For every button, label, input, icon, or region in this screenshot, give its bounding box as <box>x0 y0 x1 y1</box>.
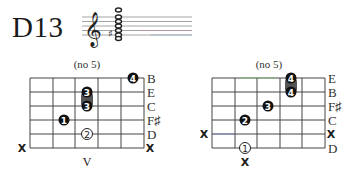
right-finger-2: 2 <box>240 115 251 126</box>
muted-string-marker: X <box>239 157 251 168</box>
svg-text:2: 2 <box>84 130 90 140</box>
svg-text:3: 3 <box>84 88 90 98</box>
sharp-icon: ♯ <box>108 28 113 39</box>
string-label: F♯ <box>147 114 161 127</box>
string-label: B <box>328 86 337 99</box>
svg-text:1: 1 <box>242 144 248 154</box>
string-label: E <box>147 86 155 99</box>
svg-text:4: 4 <box>288 74 294 84</box>
muted-string-marker: X <box>144 143 156 154</box>
string-label: E <box>328 72 336 85</box>
muted-string-marker: X <box>198 129 210 140</box>
string-label: B <box>147 72 156 85</box>
finger-number: 4 <box>130 74 136 84</box>
right-finger-1-open: 1 <box>240 143 251 154</box>
treble-clef-icon: 𝄞 <box>84 11 102 48</box>
left-finger-3a: 3 <box>82 87 93 98</box>
string-label: D <box>147 128 156 141</box>
string-label: F♯ <box>328 100 342 113</box>
right-finger-4a: 4 <box>286 73 297 84</box>
svg-text:2: 2 <box>242 116 248 126</box>
svg-text:3: 3 <box>265 102 271 112</box>
left-finger-1: 1 <box>59 115 70 126</box>
position-marker: V <box>81 156 93 168</box>
right-diagram-subtitle: (no 5) <box>239 58 299 70</box>
left-finger-2-open: 2 <box>82 129 93 140</box>
chord-notes <box>116 8 122 41</box>
right-finger-4b: 4 <box>286 87 297 98</box>
staff-color-tint <box>140 31 192 36</box>
left-finger-3b: 3 <box>82 101 93 112</box>
left-finger-4: 4 <box>128 73 139 84</box>
svg-text:4: 4 <box>288 88 294 98</box>
right-fretboard-grid <box>212 78 325 148</box>
muted-string-marker: X <box>16 143 28 154</box>
staff-notation: 𝄞 ♯ 4 3 3 1 <box>0 0 356 184</box>
string-label: C <box>328 114 337 127</box>
right-finger-3: 3 <box>263 101 274 112</box>
string-label: C <box>147 100 156 113</box>
string-label: D <box>328 142 337 155</box>
svg-text:1: 1 <box>61 116 67 126</box>
svg-text:3: 3 <box>84 102 90 112</box>
left-diagram-subtitle: (no 5) <box>57 58 117 70</box>
muted-string-marker: X <box>325 129 337 140</box>
